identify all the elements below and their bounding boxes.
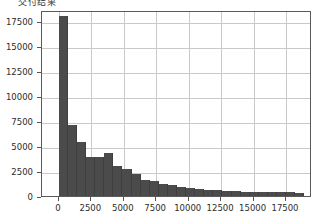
y-tick-label: 10000 (6, 92, 33, 102)
x-tick (58, 197, 59, 201)
histogram-bar (77, 142, 86, 197)
histogram-bar (259, 192, 268, 196)
histogram-bar (204, 190, 213, 196)
histogram-bar (141, 180, 150, 197)
histogram-bar (59, 16, 68, 196)
histogram-bar (132, 174, 141, 196)
histogram-bar (177, 187, 186, 196)
chart-root: 交付结果 025005000750010000125001500017500 0… (0, 0, 325, 219)
histogram-bars (42, 12, 310, 196)
histogram-bar (250, 192, 259, 196)
x-tick (220, 197, 221, 201)
x-tick-label: 5000 (112, 203, 134, 213)
histogram-bar (213, 190, 222, 196)
y-axis-labels: 025005000750010000125001500017500 (0, 0, 37, 219)
x-tick-label: 17500 (271, 203, 298, 213)
histogram-bar (68, 125, 77, 197)
histogram-bar (113, 166, 122, 196)
plot-area (41, 11, 311, 197)
histogram-bar (268, 192, 277, 196)
histogram-bar (95, 157, 104, 197)
y-tick-label: 17500 (6, 17, 33, 27)
histogram-bar (186, 188, 195, 197)
histogram-bar (159, 184, 168, 197)
x-tick-label: 12500 (207, 203, 234, 213)
y-tick-label: 7500 (11, 117, 33, 127)
x-tick-label: 2500 (79, 203, 101, 213)
histogram-bar (277, 192, 286, 196)
x-tick-label: 15000 (239, 203, 266, 213)
histogram-bar (222, 191, 231, 196)
x-tick (155, 197, 156, 201)
y-tick-label: 15000 (6, 42, 33, 52)
x-tick (253, 197, 254, 201)
histogram-bar (195, 189, 204, 196)
y-tick-label: 5000 (11, 142, 33, 152)
y-tick-label: 0 (28, 192, 33, 202)
y-tick-label: 2500 (11, 167, 33, 177)
x-tick-label: 0 (55, 203, 60, 213)
x-tick (188, 197, 189, 201)
histogram-bar (241, 192, 250, 196)
histogram-bar (104, 153, 113, 196)
histogram-bar (295, 193, 304, 196)
histogram-bar (232, 191, 241, 196)
histogram-bar (122, 169, 131, 196)
x-tick-label: 10000 (174, 203, 201, 213)
y-tick-label: 12500 (6, 67, 33, 77)
histogram-bar (286, 192, 295, 196)
histogram-bar (150, 181, 159, 196)
histogram-bar (86, 157, 95, 196)
y-tick (37, 197, 41, 198)
x-tick (285, 197, 286, 201)
x-tick (123, 197, 124, 201)
x-tick (90, 197, 91, 201)
x-tick-label: 7500 (144, 203, 166, 213)
histogram-bar (168, 185, 177, 196)
